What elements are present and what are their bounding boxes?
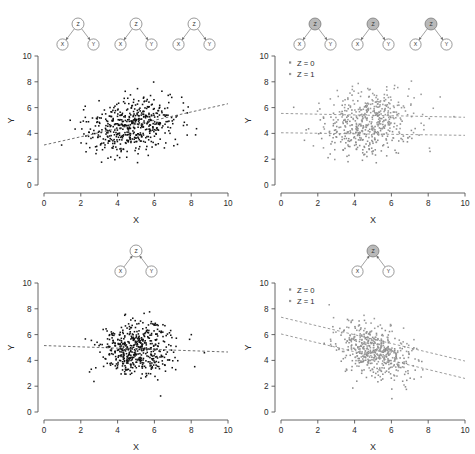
x-tick-label: 6: [152, 199, 157, 208]
axes: 02468100246810XY: [6, 279, 233, 452]
legend: Z = 0Z = 1: [289, 59, 315, 80]
x-tick-label: 4: [352, 199, 357, 208]
x-tick-label: 8: [189, 426, 194, 435]
svg-text:X: X: [298, 41, 302, 47]
y-tick-label: 10: [22, 52, 32, 61]
svg-text:Y: Y: [150, 41, 154, 47]
svg-text:Y: Y: [92, 41, 96, 47]
figure-panel-grid: ZXYZXYZXY02468100246810XY ZXYZXYZXY02468…: [0, 0, 475, 454]
svg-text:Y: Y: [208, 41, 212, 47]
x-tick-label: 8: [189, 199, 194, 208]
x-tick-label: 0: [42, 426, 47, 435]
regression-line: [281, 317, 465, 361]
x-tick-label: 6: [152, 426, 157, 435]
y-tick-label: 6: [27, 104, 32, 113]
legend-label: Z = 0: [297, 286, 315, 295]
scatter-series: [313, 80, 455, 160]
panel-top-left: ZXYZXYZXY02468100246810XY: [0, 0, 237, 227]
svg-text:Y: Y: [445, 41, 449, 47]
regression-line: [281, 133, 465, 136]
svg-text:Z: Z: [371, 21, 374, 27]
svg-text:Y: Y: [387, 268, 391, 274]
x-tick-label: 4: [115, 426, 120, 435]
x-axis-title: X: [133, 215, 139, 225]
dag-diagram-group: ZXY: [352, 245, 394, 277]
svg-text:X: X: [356, 41, 360, 47]
svg-text:X: X: [356, 268, 360, 274]
legend-label: Z = 0: [297, 59, 315, 68]
y-tick-label: 4: [264, 356, 269, 365]
y-tick-label: 0: [264, 408, 269, 417]
legend-marker: [289, 73, 291, 75]
svg-text:Z: Z: [371, 248, 374, 254]
panel-bottom-right-svg: ZXY02468100246810XYZ = 0Z = 1: [237, 227, 475, 454]
x-tick-label: 2: [79, 199, 84, 208]
x-tick-label: 10: [460, 199, 470, 208]
y-tick-label: 10: [259, 52, 269, 61]
svg-text:Y: Y: [150, 268, 154, 274]
y-tick-label: 0: [27, 408, 32, 417]
svg-text:Z: Z: [192, 21, 195, 27]
y-axis-title: Y: [6, 117, 16, 123]
panel-top-left-svg: ZXYZXYZXY02468100246810XY: [0, 0, 237, 227]
y-tick-label: 2: [264, 155, 269, 164]
svg-text:Y: Y: [387, 41, 391, 47]
y-tick-label: 10: [259, 279, 269, 288]
scatter-series: [85, 311, 206, 397]
svg-text:X: X: [119, 41, 123, 47]
y-tick-label: 4: [27, 356, 32, 365]
x-tick-label: 8: [426, 199, 431, 208]
y-tick-label: 8: [27, 78, 32, 87]
svg-text:Z: Z: [76, 21, 79, 27]
legend-label: Z = 1: [297, 70, 315, 79]
svg-text:Z: Z: [134, 21, 137, 27]
panel-top-right-svg: ZXYZXYZXY02468100246810XYZ = 0Z = 1: [237, 0, 475, 227]
x-tick-label: 2: [79, 426, 84, 435]
legend-marker: [289, 288, 291, 290]
axes: 02468100246810XY: [6, 52, 233, 225]
y-tick-label: 2: [27, 382, 32, 391]
panel-bottom-left: ZXY02468100246810XY: [0, 227, 237, 454]
svg-text:Z: Z: [429, 21, 432, 27]
x-tick-label: 0: [42, 199, 47, 208]
x-axis-title: X: [370, 215, 376, 225]
y-tick-label: 8: [27, 305, 32, 314]
y-tick-label: 8: [264, 305, 269, 314]
y-axis-title: Y: [6, 344, 16, 350]
y-axis-title: Y: [243, 344, 253, 350]
dag-diagram-group: ZXYZXYZXY: [57, 18, 215, 50]
panel-top-right: ZXYZXYZXY02468100246810XYZ = 0Z = 1: [237, 0, 475, 227]
x-axis-title: X: [133, 442, 139, 452]
legend-marker: [289, 61, 291, 63]
panel-bottom-right: ZXY02468100246810XYZ = 0Z = 1: [237, 227, 475, 454]
x-tick-label: 8: [426, 426, 431, 435]
scatter-series: [61, 81, 197, 163]
y-tick-label: 6: [27, 331, 32, 340]
legend-label: Z = 1: [297, 297, 315, 306]
x-tick-label: 10: [223, 426, 233, 435]
dag-diagram-group: ZXYZXYZXY: [294, 18, 452, 50]
x-tick-label: 0: [279, 426, 284, 435]
x-tick-label: 10: [223, 199, 233, 208]
y-axis-title: Y: [243, 117, 253, 123]
dag-diagram-group: ZXY: [115, 245, 157, 277]
x-tick-label: 2: [316, 199, 321, 208]
x-tick-label: 6: [389, 199, 394, 208]
y-tick-label: 0: [264, 181, 269, 190]
svg-text:X: X: [414, 41, 418, 47]
y-tick-label: 4: [264, 129, 269, 138]
x-tick-label: 4: [115, 199, 120, 208]
svg-text:Y: Y: [329, 41, 333, 47]
y-tick-label: 6: [264, 104, 269, 113]
x-tick-label: 6: [389, 426, 394, 435]
x-axis-title: X: [370, 442, 376, 452]
y-tick-label: 2: [264, 382, 269, 391]
y-tick-label: 10: [22, 279, 32, 288]
x-tick-label: 4: [352, 426, 357, 435]
svg-text:X: X: [61, 41, 65, 47]
legend-marker: [289, 300, 291, 302]
panel-bottom-left-svg: ZXY02468100246810XY: [0, 227, 237, 454]
y-tick-label: 4: [27, 129, 32, 138]
svg-text:X: X: [177, 41, 181, 47]
y-tick-label: 0: [27, 181, 32, 190]
